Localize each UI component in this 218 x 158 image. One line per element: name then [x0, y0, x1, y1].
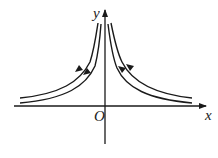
curve-left-outer	[20, 23, 98, 98]
x-axis-label: x	[204, 107, 212, 123]
origin-label: O	[94, 108, 105, 124]
curve-right-inner	[108, 24, 192, 103]
field-line-diagram: y O x	[0, 0, 218, 158]
y-axis-label: y	[91, 5, 100, 21]
curve-right-outer	[111, 23, 192, 98]
arrow-up-icon	[75, 65, 83, 72]
